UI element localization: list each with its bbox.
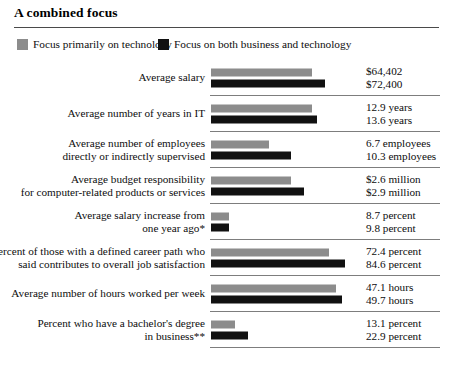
row-bar-group — [211, 285, 371, 304]
chart-row-inner: Percent of those with a defined career p… — [0, 240, 453, 276]
value-business-and-technology-focus: $2.9 million — [366, 186, 421, 199]
row-divider — [210, 347, 440, 348]
value-technology-focus: 47.1 hours — [366, 281, 413, 294]
chart-title: A combined focus — [14, 5, 118, 21]
value-technology-focus: 12.9 years — [366, 101, 412, 114]
row-bar-group — [211, 177, 371, 196]
title-divider — [14, 27, 439, 28]
row-value-labels: 12.9 years13.6 years — [366, 101, 412, 128]
row-category-label: Percent of those with a defined career p… — [0, 245, 205, 272]
row-bar-group — [211, 141, 371, 160]
row-bar-group — [211, 249, 371, 268]
chart-row: Average number of hours worked per week4… — [0, 276, 453, 312]
bar-technology-focus — [211, 141, 269, 149]
value-business-and-technology-focus: 22.9 percent — [366, 330, 421, 343]
row-category-label: Average number of years in IT — [0, 107, 205, 120]
legend-label-black: Focus on both business and technology — [174, 38, 351, 50]
value-technology-focus: $64,402 — [366, 65, 402, 78]
row-value-labels: 13.1 percent22.9 percent — [366, 317, 421, 344]
bar-business-and-technology-focus — [211, 188, 304, 196]
chart-row: Percent of those with a defined career p… — [0, 240, 453, 276]
row-category-label: Average salary — [0, 71, 205, 84]
row-bar-group — [211, 213, 371, 232]
chart-row-inner: Average budget responsibility for comput… — [0, 168, 453, 204]
bar-business-and-technology-focus — [211, 80, 325, 88]
bar-technology-focus — [211, 321, 235, 329]
row-value-labels: 8.7 percent9.8 percent — [366, 209, 416, 236]
legend-item-black: Focus on both business and technology — [158, 38, 351, 50]
row-category-label: Average salary increase from one year ag… — [0, 209, 205, 236]
row-value-labels: 6.7 employees10.3 employees — [366, 137, 436, 164]
chart-row-inner: Average number of employees directly or … — [0, 132, 453, 168]
row-category-label: Average budget responsibility for comput… — [0, 173, 205, 200]
bar-technology-focus — [211, 69, 312, 77]
value-technology-focus: 8.7 percent — [366, 209, 416, 222]
legend-swatch-gray-icon — [17, 39, 28, 50]
bar-technology-focus — [211, 213, 229, 221]
chart-row-inner: Average number of hours worked per week4… — [0, 276, 453, 312]
chart-row-inner: Average number of years in IT12.9 years1… — [0, 96, 453, 132]
value-business-and-technology-focus: 10.3 employees — [366, 150, 436, 163]
chart-row-inner: Percent who have a bachelor's degree in … — [0, 312, 453, 348]
value-technology-focus: $2.6 million — [366, 173, 421, 186]
chart-legend: Focus primarily on technology Focus on b… — [14, 38, 439, 52]
chart-row: Average number of employees directly or … — [0, 132, 453, 168]
value-business-and-technology-focus: $72,400 — [366, 78, 402, 91]
bar-business-and-technology-focus — [211, 332, 248, 340]
bar-technology-focus — [211, 177, 291, 185]
row-category-label: Percent who have a bachelor's degree in … — [0, 317, 205, 344]
bar-business-and-technology-focus — [211, 152, 291, 160]
value-business-and-technology-focus: 49.7 hours — [366, 294, 413, 307]
chart-row: Average number of years in IT12.9 years1… — [0, 96, 453, 132]
chart-row: Average salary$64,402$72,400 — [0, 60, 453, 96]
value-business-and-technology-focus: 13.6 years — [366, 114, 412, 127]
row-category-label: Average number of employees directly or … — [0, 137, 205, 164]
value-technology-focus: 72.4 percent — [366, 245, 421, 258]
row-bar-group — [211, 321, 371, 340]
chart-row: Average salary increase from one year ag… — [0, 204, 453, 240]
legend-label-gray: Focus primarily on technology — [33, 38, 172, 50]
chart-rows: Average salary$64,402$72,400Average numb… — [0, 60, 453, 348]
legend-item-gray: Focus primarily on technology — [17, 38, 172, 50]
value-technology-focus: 13.1 percent — [366, 317, 421, 330]
row-bar-group — [211, 69, 371, 88]
value-technology-focus: 6.7 employees — [366, 137, 436, 150]
chart-row-inner: Average salary increase from one year ag… — [0, 204, 453, 240]
row-bar-group — [211, 105, 371, 124]
row-value-labels: 47.1 hours49.7 hours — [366, 281, 413, 308]
combined-focus-chart: A combined focus Focus primarily on tech… — [0, 0, 453, 392]
bar-business-and-technology-focus — [211, 260, 345, 268]
legend-swatch-black-icon — [158, 39, 169, 50]
bar-business-and-technology-focus — [211, 224, 229, 232]
value-business-and-technology-focus: 84.6 percent — [366, 258, 421, 271]
bar-business-and-technology-focus — [211, 296, 342, 304]
row-value-labels: 72.4 percent84.6 percent — [366, 245, 421, 272]
chart-row: Percent who have a bachelor's degree in … — [0, 312, 453, 348]
bar-technology-focus — [211, 249, 329, 257]
bar-business-and-technology-focus — [211, 116, 317, 124]
row-value-labels: $64,402$72,400 — [366, 65, 402, 92]
chart-row: Average budget responsibility for comput… — [0, 168, 453, 204]
bar-technology-focus — [211, 285, 336, 293]
chart-row-inner: Average salary$64,402$72,400 — [0, 60, 453, 96]
row-category-label: Average number of hours worked per week — [0, 287, 205, 300]
bar-technology-focus — [211, 105, 312, 113]
value-business-and-technology-focus: 9.8 percent — [366, 222, 416, 235]
row-value-labels: $2.6 million$2.9 million — [366, 173, 421, 200]
